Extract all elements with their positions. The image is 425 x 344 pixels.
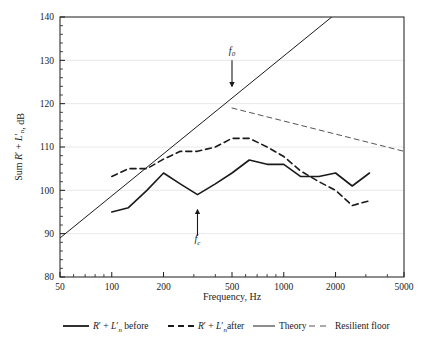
- y-tick-label-140: 140: [40, 12, 55, 22]
- y-tick-label-110: 110: [40, 142, 54, 152]
- y-tick-label-130: 130: [40, 56, 55, 66]
- chart-figure: 8090100110120130140 50100200500100020005…: [0, 0, 425, 344]
- x-tick-label-5000: 5000: [395, 282, 414, 292]
- x-tick-label-50: 50: [55, 282, 65, 292]
- x-axis-title: Frequency, Hz: [203, 291, 262, 302]
- x-tick-label-100: 100: [105, 282, 120, 292]
- y-tick-label-90: 90: [45, 229, 55, 239]
- legend-label-resilient-floor: Resilient floor: [335, 321, 390, 331]
- x-tick-label-1000: 1000: [274, 282, 293, 292]
- legend-label-theory: Theory: [279, 321, 307, 331]
- x-tick-label-2000: 2000: [326, 282, 345, 292]
- acoustic-insulation-chart: 8090100110120130140 50100200500100020005…: [0, 0, 425, 344]
- y-tick-label-80: 80: [45, 272, 55, 282]
- y-tick-label-100: 100: [40, 186, 55, 196]
- y-tick-label-120: 120: [40, 99, 55, 109]
- x-tick-label-200: 200: [156, 282, 171, 292]
